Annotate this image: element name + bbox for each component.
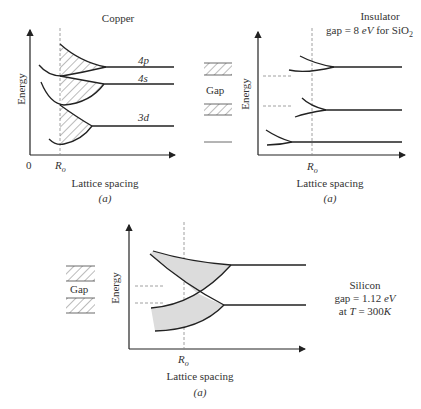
silicon-gap-value: gap = 1.12 eV bbox=[320, 292, 410, 304]
band-3d-label: 3d bbox=[138, 111, 149, 123]
copper-xlabel: Lattice spacing bbox=[50, 177, 160, 189]
silicon-caption: (a) bbox=[175, 386, 225, 398]
band-4p-label: 4p bbox=[138, 54, 149, 66]
band-diagram-canvas bbox=[0, 0, 421, 409]
copper-panel bbox=[30, 28, 175, 155]
copper-caption: (a) bbox=[80, 192, 130, 204]
copper-origin: 0 bbox=[26, 159, 32, 171]
silicon-gap-label: Gap bbox=[70, 283, 88, 295]
insulator-title: Insulator bbox=[340, 10, 420, 22]
silicon-xlabel: Lattice spacing bbox=[145, 370, 255, 382]
insulator-ylabel: Energy bbox=[239, 69, 251, 119]
copper-title: Copper bbox=[88, 12, 148, 24]
insulator-gap-label: Gap bbox=[206, 84, 224, 96]
silicon-ro: Ro bbox=[178, 353, 189, 370]
silicon-ylabel: Energy bbox=[109, 263, 121, 313]
insulator-subtitle: gap = 8 eV for SiO2 bbox=[326, 24, 413, 41]
insulator-xlabel: Lattice spacing bbox=[275, 177, 385, 189]
silicon-title: Silicon bbox=[320, 279, 410, 291]
copper-ro: Ro bbox=[55, 159, 66, 176]
band-4s-label: 4s bbox=[138, 72, 148, 84]
insulator-panel bbox=[204, 28, 405, 158]
copper-ylabel: Energy bbox=[15, 64, 27, 114]
insulator-caption: (a) bbox=[305, 192, 355, 204]
silicon-panel bbox=[66, 222, 306, 352]
insulator-ro: Ro bbox=[307, 160, 318, 177]
silicon-temperature: at T = 300K bbox=[320, 305, 410, 317]
